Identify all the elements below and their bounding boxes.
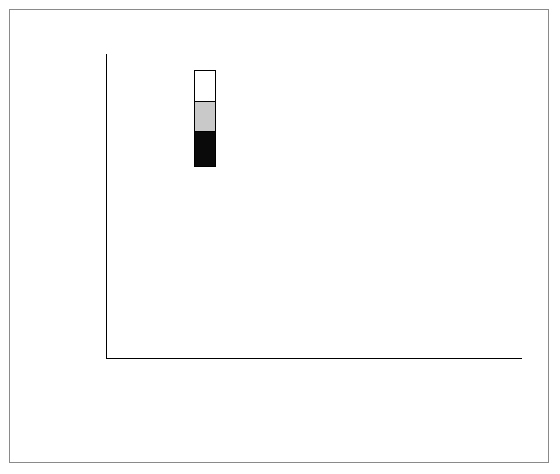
key-legend [188,54,418,174]
x-axis-line [106,358,522,359]
white-swatch [195,71,215,101]
lifetime-prevalence-brace-group [106,54,196,184]
black-swatch [195,132,215,166]
key-swatch-bar [194,70,216,167]
chart-frame [9,9,549,463]
gray-swatch [195,101,215,131]
